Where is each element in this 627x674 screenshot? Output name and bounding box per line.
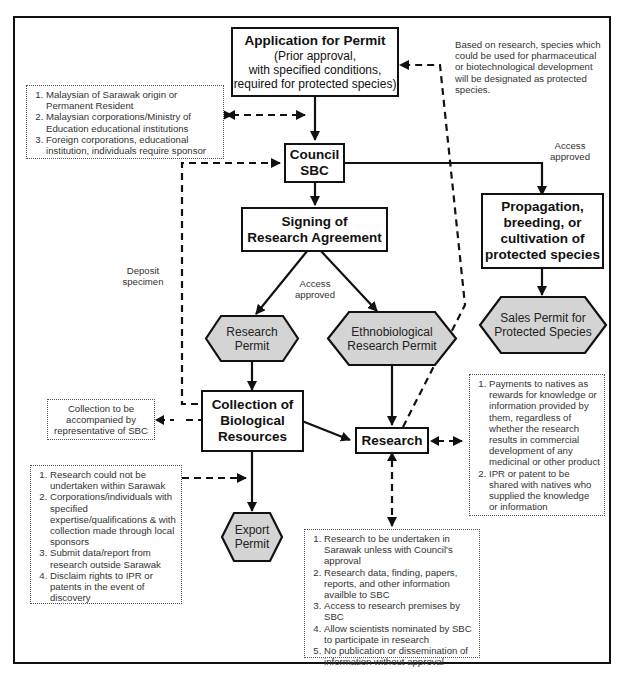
natives-benefit-item: IPR or patent to be shared with natives … [489, 468, 600, 513]
research-box: Research [355, 427, 429, 454]
ethnobiological-research-permit-hexagon: EthnobiologicalResearch Permit [327, 311, 457, 366]
export-permit-line1: Export [235, 523, 270, 537]
signing-line1: Signing of [282, 214, 348, 230]
collection-line3: Resources [218, 429, 287, 445]
access-approved-right-line1: Access [545, 140, 595, 151]
application-subtitle-3: required for protected species) [234, 77, 397, 91]
eligibility-item: Malaysian of Sarawak origin or Permanent… [46, 89, 219, 111]
council-line1: Council [290, 147, 340, 163]
research-condition-item: Research data, finding, papers, reports,… [324, 567, 475, 601]
collection-line1: Collection of [212, 397, 294, 413]
research-condition-item: Research to be undertaken in Sarawak unl… [324, 533, 475, 567]
application-title: Application for Permit [244, 33, 385, 49]
sales-permit-line2: Protected Species [494, 325, 591, 339]
access-approved-right-line2: approved [545, 151, 595, 162]
collection-line2: Biological [220, 413, 285, 429]
sales-permit-line1: Sales Permit for [500, 311, 585, 325]
signing-research-agreement-box: Signing of Research Agreement [241, 207, 388, 252]
propagation-line: cultivation of [501, 231, 585, 247]
access-approved-center-line2: approved [290, 289, 340, 300]
ethno-permit-line2: Research Permit [347, 339, 436, 353]
research-label: Research [362, 433, 423, 449]
sales-permit-hexagon: Sales Permit forProtected Species [479, 296, 607, 354]
access-approved-center-line1: Access [290, 278, 340, 289]
application-for-permit-box: Application for Permit (Prior approval, … [231, 27, 399, 97]
access-approved-label-center: Access approved [290, 278, 340, 300]
application-subtitle-2: with specified conditions, [249, 63, 382, 77]
eligibility-item: Malaysian corporations/Ministry of Educa… [46, 111, 219, 133]
export-condition-item: Submit data/report from research outside… [50, 547, 177, 569]
ethno-permit-line1: Ethnobiological [351, 325, 432, 339]
collection-biological-resources-box: Collection of Biological Resources [201, 390, 304, 452]
research-permit-line1: Research [226, 325, 277, 339]
research-permit-line2: Permit [235, 339, 270, 353]
collection-accompany-line1: Collection to be [50, 403, 152, 414]
export-permit-line2: Permit [235, 537, 270, 551]
natives-benefit-item: Payments to natives as rewards for knowl… [489, 378, 600, 468]
eligibility-note: Malaysian of Sarawak origin or Permanent… [26, 85, 224, 159]
collection-accompany-line3: representative of SBC [50, 425, 152, 436]
propagation-box: Propagation, breeding, or cultivation of… [481, 193, 604, 269]
export-condition-item: Disclaim rights to IPR or patents in the… [50, 570, 177, 604]
propagation-line: protected species [485, 247, 600, 263]
council-sbc-box: Council SBC [284, 143, 345, 183]
deposit-specimen-line2: specimen [118, 276, 168, 287]
export-permit-hexagon: ExportPermit [221, 512, 283, 562]
deposit-specimen-line1: Deposit [118, 265, 168, 276]
propagation-line: breeding, or [503, 215, 581, 231]
application-subtitle-1: (Prior approval, [274, 49, 356, 63]
signing-line2: Research Agreement [247, 230, 382, 246]
council-line2: SBC [300, 163, 329, 179]
research-permit-hexagon: ResearchPermit [205, 315, 299, 362]
export-conditions-note: Research could not be undertaken within … [30, 465, 182, 604]
access-approved-label-right: Access approved [545, 140, 595, 162]
export-condition-item: Corporations/individuals with specified … [50, 491, 177, 547]
research-condition-item: No publication or dissemination of infor… [324, 645, 475, 667]
eligibility-item: Foreign corporations, educational instit… [46, 134, 219, 156]
protected-species-note: Based on research, species which could b… [455, 39, 605, 95]
collection-accompany-note: Collection to be accompanied by represen… [47, 399, 155, 440]
research-condition-item: Access to research premises by SBC [324, 600, 475, 622]
deposit-specimen-label: Deposit specimen [118, 265, 168, 287]
research-condition-item: Allow scientists nominated by SBC to par… [324, 623, 475, 645]
natives-benefits-note: Payments to natives as rewards for knowl… [469, 374, 605, 516]
collection-accompany-line2: accompanied by [50, 414, 152, 425]
export-condition-item: Research could not be undertaken within … [50, 469, 177, 491]
propagation-line: Propagation, [501, 199, 584, 215]
research-conditions-note: Research to be undertaken in Sarawak unl… [304, 529, 480, 658]
